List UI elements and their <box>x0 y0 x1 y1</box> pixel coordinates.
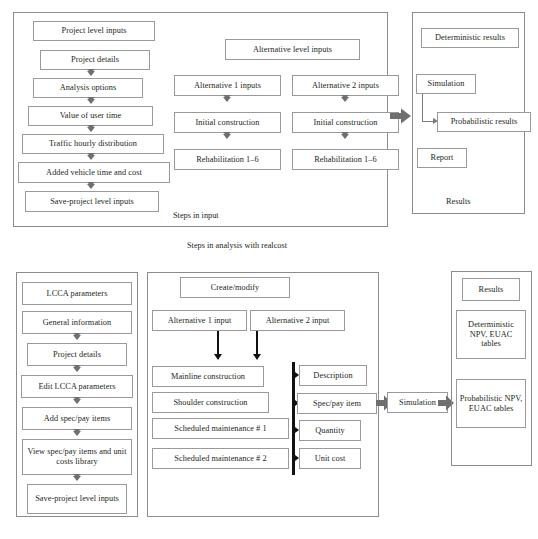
node-project-level-inputs[interactable]: Project level inputs <box>33 21 155 41</box>
node-view-spec-pay-items[interactable]: View spec/pay items and unit costs libra… <box>22 439 132 475</box>
arrow-down-alt1-initial-to-rehab <box>223 134 231 139</box>
node-analysis-options[interactable]: Analysis options <box>33 78 143 98</box>
node-alternative-1-inputs[interactable]: Alternative 1 inputs <box>174 75 281 96</box>
node-create-modify[interactable]: Create/modify <box>180 277 290 298</box>
node-label: Project details <box>53 350 101 360</box>
node-save-project-level-inputs-bottom[interactable]: Save-project level inputs <box>27 484 127 514</box>
node-unit-cost[interactable]: Unit cost <box>299 448 361 469</box>
node-project-details-bottom[interactable]: Project details <box>27 343 127 366</box>
node-save-project-level-inputs[interactable]: Save-project level inputs <box>25 191 159 212</box>
arrow-head-alt2-to-activities <box>253 354 261 360</box>
arrow-down-general-to-project-details <box>73 335 81 340</box>
node-label: Deterministic results <box>435 33 505 43</box>
node-alternative-2-input[interactable]: Alternative 2 input <box>250 310 345 331</box>
node-label: Initial construction <box>196 118 260 128</box>
node-label: Simulation <box>428 79 465 89</box>
node-probabilistic-npv-euac-tables[interactable]: Probabilistic NPV, EUAC tables <box>456 379 526 428</box>
node-report[interactable]: Report <box>417 148 467 168</box>
node-lcca-parameters[interactable]: LCCA parameters <box>22 282 132 305</box>
arrowhead-rail-to-quantity <box>295 427 299 433</box>
node-alternative-2-inputs[interactable]: Alternative 2 inputs <box>292 75 399 96</box>
node-label: Probabilistic results <box>451 117 518 127</box>
node-label: Project details <box>71 55 119 65</box>
arrow-input-to-results <box>390 108 412 124</box>
node-description[interactable]: Description <box>299 365 367 386</box>
node-alternative-1-input[interactable]: Alternative 1 input <box>152 310 247 331</box>
node-deterministic-results[interactable]: Deterministic results <box>421 28 519 48</box>
node-label: Project level inputs <box>61 26 126 36</box>
node-label: View spec/pay items and unit costs libra… <box>25 447 129 466</box>
node-label: Edit LCCA parameters <box>38 382 115 392</box>
node-label: Description <box>313 371 352 381</box>
node-label: Save-project level inputs <box>35 494 119 504</box>
node-label: Unit cost <box>315 454 346 464</box>
node-label: Value of user time <box>60 111 122 121</box>
node-general-information[interactable]: General information <box>22 311 132 334</box>
arrow-down-added-vehicle-to-save <box>87 184 95 189</box>
node-deterministic-npv-euac-tables[interactable]: Deterministic NPV, EUAC tables <box>456 310 526 359</box>
node-add-spec-pay-items[interactable]: Add spec/pay items <box>22 407 132 430</box>
node-results-bottom[interactable]: Results <box>462 278 520 301</box>
arrow-head-alt1-to-activities <box>214 354 222 360</box>
node-shoulder-construction[interactable]: Shoulder construction <box>152 392 269 413</box>
node-value-of-user-time[interactable]: Value of user time <box>28 106 153 126</box>
node-label: Rehabilitation 1–6 <box>314 155 376 165</box>
node-spec-pay-item[interactable]: Spec/pay item <box>297 393 377 414</box>
node-label: Alternative 1 input <box>168 316 232 326</box>
node-scheduled-maintenance-2[interactable]: Scheduled maintenance # 2 <box>152 448 289 469</box>
node-label: Spec/pay item <box>313 399 361 409</box>
node-label: Simulation <box>399 398 436 408</box>
node-alternative-1-initial-construction[interactable]: Initial construction <box>174 112 281 133</box>
arrow-down-alt2-initial-to-rehab <box>341 134 349 139</box>
arrowhead-rail-to-unit-cost <box>295 455 299 461</box>
node-label: Added vehicle time and cost <box>46 168 142 178</box>
figure-caption-top: Steps in analysis with realcost <box>187 241 287 250</box>
arrow-down-view-spec-to-save <box>73 476 81 481</box>
node-quantity[interactable]: Quantity <box>299 420 361 441</box>
node-alternative-1-rehabilitation[interactable]: Rehabilitation 1–6 <box>174 149 281 170</box>
node-label: Traffic hourly distribution <box>49 139 137 149</box>
arrow-down-alt2-inputs-to-initial <box>341 97 349 102</box>
figure-root: Project level inputs Project details Ana… <box>0 0 538 539</box>
node-scheduled-maintenance-1[interactable]: Scheduled maintenance # 1 <box>152 418 289 439</box>
node-label: Add spec/pay items <box>44 414 110 424</box>
node-mainline-construction[interactable]: Mainline construction <box>152 366 264 387</box>
node-traffic-hourly-distribution[interactable]: Traffic hourly distribution <box>22 134 164 154</box>
arrow-stem-alt1-to-activities <box>217 331 219 356</box>
node-label: Deterministic NPV, EUAC tables <box>459 320 523 349</box>
node-label: Alternative 1 inputs <box>194 81 261 91</box>
label-steps-in-input: Steps in input <box>173 211 219 220</box>
label-results-top: Results <box>446 197 470 206</box>
arrow-down-traffic-to-added-vehicle <box>87 155 95 160</box>
node-probabilistic-results[interactable]: Probabilistic results <box>437 112 531 132</box>
node-label: Alternative level inputs <box>253 45 332 55</box>
node-alternative-level-inputs[interactable]: Alternative level inputs <box>225 39 360 60</box>
arrow-down-analysis-to-value-of-user-time <box>87 99 95 104</box>
arrow-down-edit-lcca-to-add-spec <box>73 399 81 404</box>
arrow-stem-alt2-to-activities <box>256 331 258 356</box>
node-label: LCCA parameters <box>47 289 108 299</box>
node-label: Alternative 2 input <box>266 316 330 326</box>
arrow-down-value-to-traffic <box>87 127 95 132</box>
arrow-down-alt1-inputs-to-initial <box>223 97 231 102</box>
node-alternative-2-initial-construction[interactable]: Initial construction <box>292 112 399 133</box>
node-label: Mainline construction <box>171 372 245 382</box>
node-alternative-2-rehabilitation[interactable]: Rehabilitation 1–6 <box>292 149 399 170</box>
arrow-down-project-details-to-analysis <box>87 71 95 76</box>
node-label: Rehabilitation 1–6 <box>196 155 258 165</box>
node-label: Analysis options <box>60 83 116 93</box>
arrow-down-project-details-to-edit-lcca <box>73 367 81 372</box>
node-label: General information <box>43 318 111 328</box>
node-label: Probabilistic NPV, EUAC tables <box>459 394 523 413</box>
node-added-vehicle-time-and-cost[interactable]: Added vehicle time and cost <box>18 162 170 183</box>
node-project-details[interactable]: Project details <box>40 50 150 70</box>
node-label: Report <box>431 153 454 163</box>
node-label: Shoulder construction <box>173 398 247 408</box>
node-simulation-top[interactable]: Simulation <box>416 74 476 94</box>
node-label: Quantity <box>315 426 344 436</box>
node-label: Create/modify <box>211 283 260 293</box>
node-label: Alternative 2 inputs <box>312 81 379 91</box>
node-label: Save-project level inputs <box>50 197 134 207</box>
node-edit-lcca-parameters[interactable]: Edit LCCA parameters <box>21 375 133 398</box>
node-label: Scheduled maintenance # 2 <box>174 454 266 464</box>
